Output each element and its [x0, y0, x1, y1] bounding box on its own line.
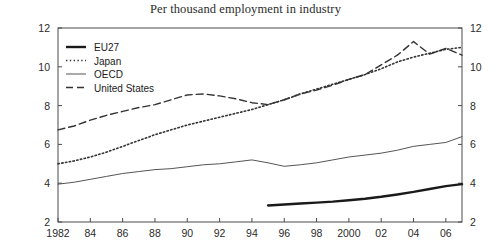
x-axis-tick-label: 04: [408, 227, 420, 239]
x-axis-tick-label: 94: [246, 227, 258, 239]
series-line-eu27: [268, 184, 462, 205]
y-axis-tick-label-right: 10: [470, 61, 482, 73]
y-axis-tick-label-right: 12: [470, 22, 482, 34]
x-axis-tick-label: 90: [181, 227, 193, 239]
series-line-oecd: [58, 137, 462, 185]
x-axis-tick-label: 96: [278, 227, 290, 239]
legend-label-oecd: OECD: [94, 69, 123, 80]
y-axis-tick-label: 12: [38, 22, 50, 34]
y-axis-tick-label: 10: [38, 61, 50, 73]
x-axis-tick-label: 1982: [46, 227, 70, 239]
chart-legend: EU27JapanOECDUnited States: [66, 42, 154, 94]
y-axis-tick-label-right: 6: [470, 138, 476, 150]
legend-label-eu27: EU27: [94, 42, 119, 53]
x-axis-tick-label: 84: [84, 227, 96, 239]
x-axis-tick-label: 86: [117, 227, 129, 239]
x-axis-tick-label: 02: [375, 227, 387, 239]
y-axis-tick-label: 8: [44, 100, 50, 112]
legend-label-japan: Japan: [94, 56, 121, 67]
y-axis-tick-label-right: 8: [470, 100, 476, 112]
x-axis-tick-label: 98: [311, 227, 323, 239]
x-axis-tick-label: 2000: [337, 227, 361, 239]
legend-label-united-states: United States: [94, 83, 154, 94]
x-axis-tick-label: 92: [214, 227, 226, 239]
y-axis-tick-label: 6: [44, 138, 50, 150]
chart-figure: Per thousand employment in industry 2244…: [0, 0, 491, 251]
x-axis-tick-label: 88: [149, 227, 161, 239]
y-axis-tick-label-right: 2: [470, 216, 476, 228]
line-chart-plot: 2244668810101212198284868890929496982000…: [0, 0, 491, 251]
y-axis-tick-label: 4: [44, 177, 50, 189]
y-axis-tick-label-right: 4: [470, 177, 476, 189]
x-axis-tick-label: 06: [440, 227, 452, 239]
